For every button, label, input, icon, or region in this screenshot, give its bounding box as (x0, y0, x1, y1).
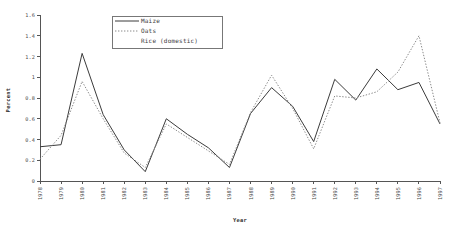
y-tick-label: 0.4 (25, 137, 35, 143)
x-tick-label: 1979 (58, 187, 64, 200)
x-tick-label: 1986 (205, 187, 211, 200)
y-tick-label: 1.2 (25, 54, 35, 60)
x-tick-label: 1991 (311, 187, 317, 200)
y-tick-label: 0.2 (25, 157, 35, 163)
x-tick-label: 1997 (437, 187, 443, 200)
x-axis-title: Year (233, 217, 248, 223)
y-tick-label: 0 (32, 178, 35, 184)
x-tick-label: 1989 (269, 187, 275, 200)
x-tick-label: 1988 (248, 187, 254, 200)
chart-container: 00.20.40.60.811.21.41.6 1978197919801981… (0, 0, 456, 230)
y-tick-label: 1.6 (25, 12, 35, 18)
x-tick-label: 1987 (226, 187, 232, 200)
x-tick-label: 1982 (121, 187, 127, 200)
x-tick-label: 1981 (100, 187, 106, 200)
y-tick-label: 0.6 (25, 116, 35, 122)
x-tick-label: 1996 (416, 187, 422, 200)
x-tick-label: 1985 (184, 187, 190, 200)
legend-label-maize: Maize (141, 17, 160, 24)
chart-legend: MaizeOatsRice (domestic) (112, 16, 222, 48)
x-tick-label: 1984 (163, 187, 169, 200)
x-tick-label: 1983 (142, 187, 148, 200)
x-tick-label: 1995 (395, 187, 401, 200)
x-tick-label: 1990 (290, 187, 296, 200)
y-tick-label: 1 (32, 74, 35, 80)
y-tick-label: 0.8 (25, 95, 35, 101)
x-tick-label: 1978 (37, 187, 43, 200)
x-tick-label: 1993 (353, 187, 359, 200)
x-tick-label: 1994 (374, 187, 380, 200)
legend-label-rice-domestic: Rice (domestic) (141, 37, 198, 44)
x-tick-label: 1992 (332, 187, 338, 200)
legend-label-oats: Oats (141, 27, 156, 34)
y-tick-label: 1.4 (25, 33, 35, 39)
x-tick-label: 1980 (79, 187, 85, 200)
line-chart: 00.20.40.60.811.21.41.6 1978197919801981… (0, 0, 456, 230)
y-axis-title: Percent (5, 88, 11, 113)
